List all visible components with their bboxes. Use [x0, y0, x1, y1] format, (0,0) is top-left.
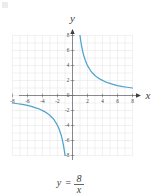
- y-tick-label: -2: [65, 107, 70, 113]
- equation-numerator: 8: [77, 173, 82, 184]
- equation-equals: =: [65, 177, 72, 188]
- y-tick-label: 4: [67, 62, 70, 68]
- x-tick-label: 4: [101, 98, 104, 104]
- curve-branch-right: [80, 36, 133, 89]
- hyperbola-graph-figure: -8-6-4-22468-8-6-4-202468 y x y = 8 x: [0, 0, 161, 195]
- y-axis-arrow: [70, 29, 74, 34]
- equation-denominator: x: [76, 184, 82, 195]
- y-tick-label: 2: [67, 77, 70, 83]
- x-axis-label: x: [145, 89, 151, 101]
- x-tick-label: 8: [131, 98, 134, 104]
- y-tick-label: 0: [67, 92, 70, 98]
- x-tick-label: -6: [25, 98, 30, 104]
- equation-lhs: y: [56, 177, 62, 188]
- x-axis-arrow: [136, 93, 141, 97]
- y-tick-label: -6: [65, 137, 70, 143]
- y-tick-label: -8: [65, 152, 70, 158]
- x-tick-label: -2: [55, 98, 60, 104]
- curve-branch-left: [13, 103, 66, 156]
- y-tick-label: 8: [67, 32, 70, 38]
- x-tick-label: -4: [40, 98, 45, 104]
- y-axis-label: y: [69, 12, 75, 24]
- x-tick-label: 6: [116, 98, 119, 104]
- y-tick-label: -4: [65, 122, 70, 128]
- x-tick-label: 2: [86, 98, 89, 104]
- y-tick-label: 6: [67, 47, 70, 53]
- equation-label: y = 8 x: [56, 173, 84, 195]
- figure-page: -8-6-4-22468-8-6-4-202468 y x y = 8 x: [0, 0, 161, 195]
